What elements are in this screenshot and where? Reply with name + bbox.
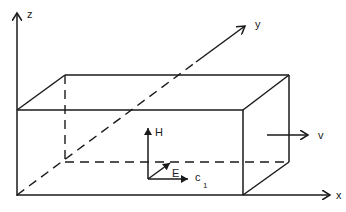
x-axis-label: x xyxy=(336,189,342,201)
y-axis: y xyxy=(17,18,261,195)
z-axis-label: z xyxy=(27,8,33,20)
x-axis: x xyxy=(17,189,342,201)
field-vectors: H E c 1 xyxy=(148,126,208,190)
H-label: H xyxy=(155,126,163,138)
E-label: E xyxy=(172,167,179,179)
diagram-canvas: z x y v H E c 1 xyxy=(0,0,346,212)
velocity-label: v xyxy=(318,129,324,141)
c1-label: c xyxy=(195,171,201,183)
c1-subscript: 1 xyxy=(203,181,208,190)
velocity-arrow: v xyxy=(267,129,324,141)
E-vector xyxy=(148,163,170,179)
z-axis: z xyxy=(17,8,33,196)
box xyxy=(17,75,289,195)
y-axis-label: y xyxy=(255,18,261,30)
